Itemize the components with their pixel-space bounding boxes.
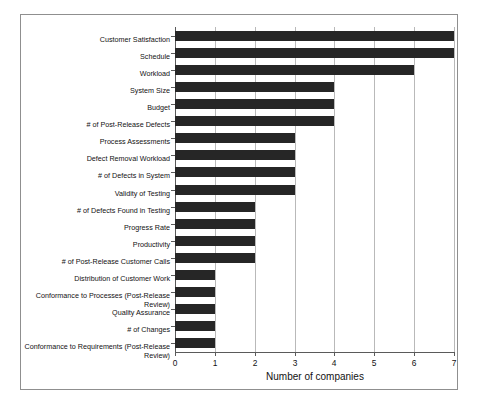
x-axis-line (175, 352, 455, 353)
bar (175, 48, 454, 58)
category-label: # of Defects Found in Testing (24, 207, 170, 216)
category-label: Distribution of Customer Work (24, 275, 170, 284)
bar-row: Workload (175, 65, 454, 75)
category-label: Conformance to Processes (Post-Release R… (24, 292, 170, 309)
x-tick-0 (175, 352, 176, 356)
category-label: Workload (24, 70, 170, 79)
y-tick (171, 70, 175, 71)
x-tick-label-6: 6 (402, 358, 426, 368)
category-label: # of Changes (24, 326, 170, 335)
bar (175, 31, 454, 41)
bar-row: Budget (175, 99, 454, 109)
category-label: Defect Removal Workload (24, 155, 170, 164)
x-tick-3 (295, 352, 296, 356)
y-tick (171, 207, 175, 208)
bar-row: Conformance to Processes (Post-Release R… (175, 287, 454, 297)
y-tick (171, 309, 175, 310)
y-tick (171, 121, 175, 122)
y-tick (171, 326, 175, 327)
y-tick (171, 241, 175, 242)
x-tick-label-3: 3 (283, 358, 307, 368)
category-label: Conformance to Requirements (Post-Releas… (24, 343, 170, 360)
category-label: Customer Satisfaction (24, 36, 170, 45)
y-tick (171, 224, 175, 225)
bar (175, 236, 255, 246)
y-tick (171, 275, 175, 276)
bar (175, 270, 215, 280)
bar (175, 133, 295, 143)
bar (175, 219, 255, 229)
bar-row: # of Defects Found in Testing (175, 202, 454, 212)
x-tick-label-7: 7 (442, 358, 466, 368)
y-tick (171, 343, 175, 344)
bar-row: Productivity (175, 236, 454, 246)
x-tick-label-1: 1 (203, 358, 227, 368)
plot-area: Customer SatisfactionScheduleWorkloadSys… (175, 27, 454, 352)
bar (175, 287, 215, 297)
chart-frame: Customer SatisfactionScheduleWorkloadSys… (20, 14, 458, 390)
x-tick-label-5: 5 (362, 358, 386, 368)
category-label: Productivity (24, 241, 170, 250)
bar (175, 202, 255, 212)
bar-row: Customer Satisfaction (175, 31, 454, 41)
bar-row: # of Changes (175, 321, 454, 331)
bar-row: Schedule (175, 48, 454, 58)
bar (175, 116, 334, 126)
bar-row: # of Post-Release Defects (175, 116, 454, 126)
bar (175, 82, 334, 92)
x-tick-label-4: 4 (322, 358, 346, 368)
bar-rows: Customer SatisfactionScheduleWorkloadSys… (175, 27, 454, 352)
bar-row: Defect Removal Workload (175, 150, 454, 160)
bar-row: Validity of Testing (175, 185, 454, 195)
bar (175, 304, 215, 314)
x-tick-2 (255, 352, 256, 356)
x-tick-label-0: 0 (163, 358, 187, 368)
y-tick (171, 53, 175, 54)
y-tick (171, 104, 175, 105)
x-axis-title: Number of companies (175, 371, 455, 382)
y-tick (171, 258, 175, 259)
bar (175, 150, 295, 160)
x-tick-1 (215, 352, 216, 356)
bar (175, 253, 255, 263)
y-tick (171, 155, 175, 156)
bar-row: System Size (175, 82, 454, 92)
y-tick (171, 87, 175, 88)
bar (175, 185, 295, 195)
gridline-7 (454, 27, 455, 352)
x-tick-4 (334, 352, 335, 356)
y-tick (171, 36, 175, 37)
y-tick (171, 292, 175, 293)
x-tick-5 (374, 352, 375, 356)
bar-row: Process Assessments (175, 133, 454, 143)
category-label: # of Post-Release Defects (24, 121, 170, 130)
category-label: Schedule (24, 53, 170, 62)
bar-row: # of Post-Release Customer Calls (175, 253, 454, 263)
category-label: Budget (24, 104, 170, 113)
bar (175, 321, 215, 331)
category-label: Validity of Testing (24, 190, 170, 199)
bar-row: Conformance to Requirements (Post-Releas… (175, 338, 454, 348)
bar-row: Quality Assurance (175, 304, 454, 314)
y-tick (171, 172, 175, 173)
category-label: System Size (24, 87, 170, 96)
bar (175, 65, 414, 75)
x-tick-6 (414, 352, 415, 356)
bar-row: Distribution of Customer Work (175, 270, 454, 280)
category-label: # of Defects in System (24, 172, 170, 181)
bar-row: # of Defects in System (175, 167, 454, 177)
y-tick (171, 138, 175, 139)
x-tick-7 (454, 352, 455, 356)
category-label: Progress Rate (24, 224, 170, 233)
category-label: Quality Assurance (24, 309, 170, 318)
bar (175, 167, 295, 177)
category-label: Process Assessments (24, 138, 170, 147)
bar (175, 338, 215, 348)
category-label: # of Post-Release Customer Calls (24, 258, 170, 267)
x-tick-label-2: 2 (243, 358, 267, 368)
y-tick (171, 190, 175, 191)
bar-row: Progress Rate (175, 219, 454, 229)
horizontal-bar-chart: Customer SatisfactionScheduleWorkloadSys… (21, 15, 457, 389)
bar (175, 99, 334, 109)
